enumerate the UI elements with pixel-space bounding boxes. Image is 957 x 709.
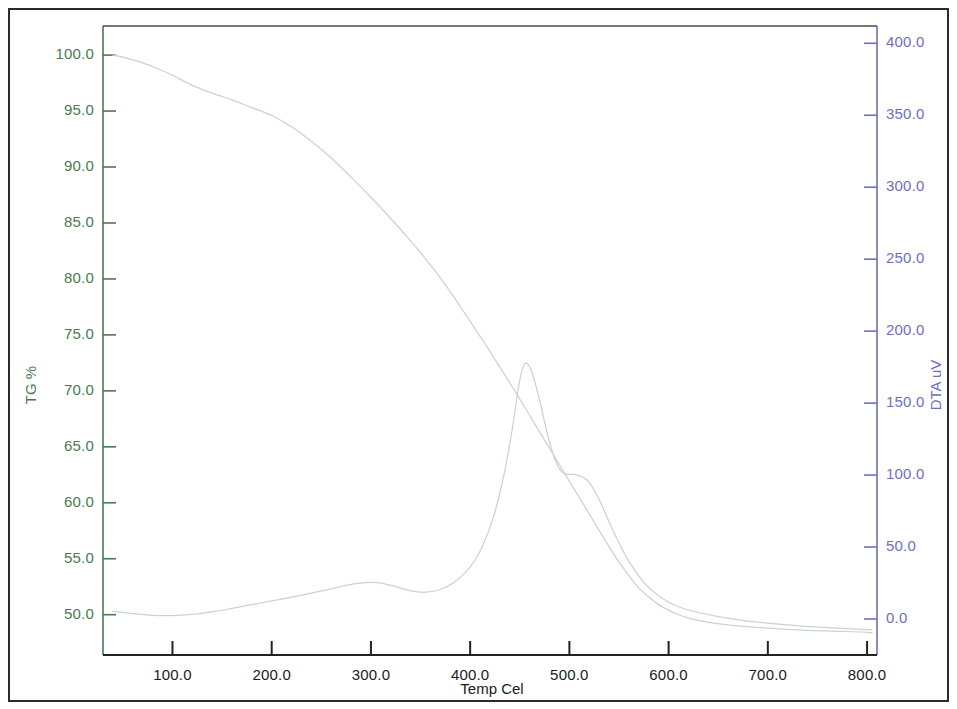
axis-tick-label: 100.0	[153, 666, 192, 683]
right-axis-title: DTA uV	[927, 360, 944, 411]
axis-tick-label: 65.0	[64, 437, 94, 454]
axis-tick-label: 700.0	[749, 666, 788, 683]
x-axis-title: Temp Cel	[460, 680, 523, 697]
left-axis-ticks: 50.055.060.065.070.075.080.085.090.095.0…	[55, 45, 116, 622]
axis-tick-label: 50.0	[64, 605, 94, 622]
axis-tick-label: 60.0	[64, 493, 94, 510]
plot-frame	[103, 26, 877, 655]
axis-tick-label: 55.0	[64, 549, 94, 566]
axis-tick-label: 200.0	[252, 666, 291, 683]
x-axis-ticks: 100.0200.0300.0400.0500.0600.0700.0800.0	[153, 641, 886, 683]
axis-tick-label: 200.0	[886, 321, 925, 338]
axis-tick-label: 350.0	[886, 105, 925, 122]
axis-tick-label: 500.0	[550, 666, 589, 683]
axis-tick-label: 70.0	[64, 381, 94, 398]
axis-tick-label: 300.0	[352, 666, 391, 683]
axis-tick-label: 75.0	[64, 325, 94, 342]
tg-curve	[113, 55, 872, 633]
dta-curve	[113, 363, 872, 630]
axis-tick-label: 150.0	[886, 393, 925, 410]
axis-tick-label: 100.0	[886, 465, 925, 482]
axis-tick-label: 85.0	[64, 213, 94, 230]
axis-tick-label: 90.0	[64, 157, 94, 174]
thermal-analysis-figure: 50.055.060.065.070.075.080.085.090.095.0…	[0, 0, 957, 709]
axis-tick-label: 300.0	[886, 177, 925, 194]
axis-tick-label: 400.0	[886, 33, 925, 50]
axis-tick-label: 100.0	[55, 45, 94, 62]
axis-tick-label: 50.0	[886, 537, 916, 554]
axis-tick-label: 800.0	[848, 666, 887, 683]
tg-dta-chart: 50.055.060.065.070.075.080.085.090.095.0…	[0, 0, 957, 709]
left-axis-title: TG %	[22, 366, 39, 404]
axis-tick-label: 80.0	[64, 269, 94, 286]
axis-tick-label: 0.0	[886, 609, 907, 626]
axis-tick-label: 250.0	[886, 249, 925, 266]
right-axis-ticks: 0.050.0100.0150.0200.0250.0300.0350.0400…	[864, 33, 925, 626]
axis-tick-label: 95.0	[64, 101, 94, 118]
axis-tick-label: 600.0	[649, 666, 688, 683]
